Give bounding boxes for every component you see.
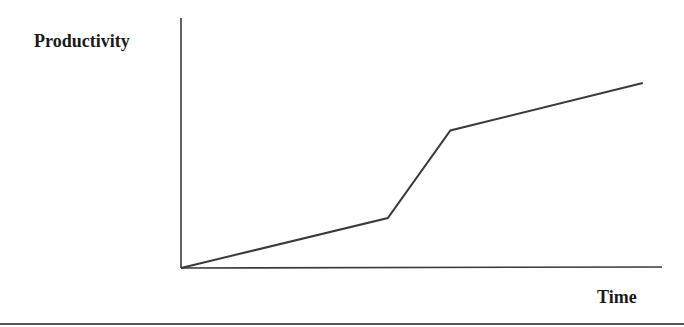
productivity-chart: Productivity Time — [0, 0, 684, 327]
x-axis — [181, 267, 662, 268]
y-axis-label: Productivity — [34, 31, 130, 51]
x-axis-label: Time — [597, 287, 637, 307]
series-line — [181, 83, 643, 268]
series-layer — [181, 83, 643, 268]
